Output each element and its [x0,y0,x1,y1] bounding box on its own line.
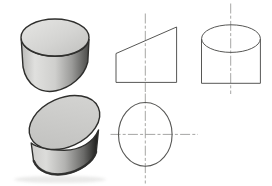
top-view [111,94,199,184]
cylinder-top-face [21,19,89,56]
drawing-svg [0,0,272,186]
pictorial-cylinder [21,19,89,91]
drawing-canvas [0,0,272,186]
front-view [116,14,177,93]
side-view [202,4,261,95]
front-view-outline [116,27,177,82]
pictorial-truncated-cylinder [14,85,108,183]
ground-shadow [14,176,106,183]
